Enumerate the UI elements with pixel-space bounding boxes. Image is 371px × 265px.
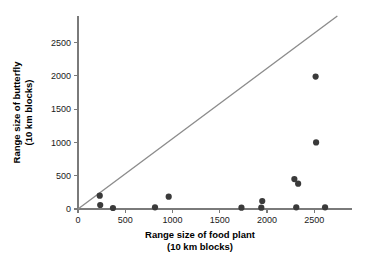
data-point-11 bbox=[313, 73, 319, 79]
x-tick-label-500: 500 bbox=[118, 215, 133, 225]
x-axis-title: Range size of food plant bbox=[145, 229, 256, 240]
data-point-1 bbox=[97, 202, 103, 208]
x-tick-label-1000: 1000 bbox=[162, 215, 182, 225]
scatter-chart-figure: 0500100015002000250005001000150020002500… bbox=[0, 0, 371, 265]
data-point-12 bbox=[313, 139, 319, 145]
data-point-4 bbox=[166, 194, 172, 200]
data-point-7 bbox=[259, 198, 265, 204]
x-tick-label-2000: 2000 bbox=[257, 215, 277, 225]
data-point-0 bbox=[97, 193, 103, 199]
y-tick-label-1500: 1500 bbox=[51, 104, 71, 114]
chart-canvas: 0500100015002000250005001000150020002500… bbox=[0, 0, 371, 265]
y-axis-title-units: (10 km blocks) bbox=[23, 80, 34, 146]
y-tick-label-2000: 2000 bbox=[51, 71, 71, 81]
x-tick-label-1500: 1500 bbox=[210, 215, 230, 225]
data-point-3 bbox=[152, 204, 158, 210]
data-point-6 bbox=[258, 205, 264, 211]
x-tick-label-2500: 2500 bbox=[304, 215, 324, 225]
data-point-2 bbox=[110, 205, 116, 211]
data-point-10 bbox=[293, 204, 299, 210]
data-point-13 bbox=[322, 204, 328, 210]
y-tick-label-1000: 1000 bbox=[51, 138, 71, 148]
reference-line bbox=[78, 16, 337, 209]
y-axis-title: Range size of butterfly bbox=[11, 61, 22, 164]
data-point-9 bbox=[295, 181, 301, 187]
y-tick-label-2500: 2500 bbox=[51, 38, 71, 48]
x-tick-label-0: 0 bbox=[75, 215, 80, 225]
y-tick-label-0: 0 bbox=[66, 204, 71, 214]
y-tick-label-500: 500 bbox=[56, 171, 71, 181]
data-point-5 bbox=[238, 205, 244, 211]
x-axis-title-units: (10 km blocks) bbox=[167, 241, 233, 252]
